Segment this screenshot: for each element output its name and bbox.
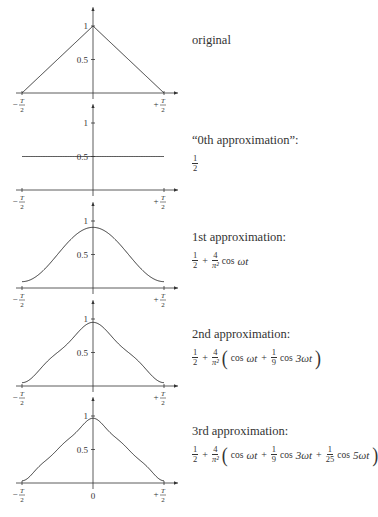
caption-approx0: “0th approximation”: bbox=[192, 133, 299, 148]
fraction-one-half: 12 bbox=[192, 348, 198, 367]
sign: + bbox=[153, 196, 158, 206]
sign: − bbox=[12, 489, 17, 499]
fraction-one-half: 12 bbox=[192, 251, 198, 270]
x-tick-minus-t-half: −T2 bbox=[12, 292, 25, 309]
y-tick-1: 1 bbox=[84, 216, 89, 226]
numerator: T bbox=[20, 390, 25, 398]
numerator: T bbox=[20, 97, 25, 105]
x-tick-minus-t-half: −T2 bbox=[12, 487, 25, 504]
sign: − bbox=[12, 99, 17, 109]
y-tick-0.5: 0.5 bbox=[77, 348, 89, 358]
y-tick-1: 1 bbox=[84, 411, 89, 421]
y-tick-0.5: 0.5 bbox=[77, 445, 89, 455]
denominator: 2 bbox=[20, 399, 24, 407]
caption-approx3: 3rd approximation: bbox=[192, 424, 288, 439]
formula-approx2: 12 + 4π² ( cos ωt + 19 cos 3ωt ) bbox=[192, 348, 321, 367]
numerator: T bbox=[20, 487, 25, 495]
fraction-four-over-pi-squared: 4π² bbox=[212, 348, 219, 367]
denominator: 2 bbox=[161, 399, 165, 407]
caption-approx1: 1st approximation: bbox=[192, 230, 286, 245]
x-tick-zero: 0 bbox=[91, 491, 96, 501]
denominator: 2 bbox=[161, 106, 165, 114]
sign: − bbox=[12, 196, 17, 206]
x-tick-plus-t-half: +T2 bbox=[153, 390, 166, 407]
denominator: 2 bbox=[161, 496, 165, 504]
plot-approx3: 10.5−T2+T20 bbox=[12, 397, 178, 504]
numerator: T bbox=[20, 194, 25, 202]
sign: + bbox=[153, 489, 158, 499]
caption-approx2: 2nd approximation: bbox=[192, 327, 290, 342]
plot-original: 10.5−T2+T2 bbox=[12, 7, 178, 114]
formula-approx3: 12 + 4π² ( cos ωt + 19 cos 3ωt + 125 cos… bbox=[192, 445, 378, 464]
fraction-one-half: 12 bbox=[192, 154, 198, 173]
caption-original: original bbox=[192, 33, 231, 48]
denominator: 2 bbox=[20, 496, 24, 504]
plot-approx1: 10.5−T2+T2 bbox=[12, 202, 178, 309]
numerator: T bbox=[161, 292, 166, 300]
sign: + bbox=[153, 294, 158, 304]
denominator: 2 bbox=[161, 301, 165, 309]
denominator: 2 bbox=[20, 106, 24, 114]
denominator: 2 bbox=[20, 203, 24, 211]
numerator: T bbox=[20, 292, 25, 300]
sign: − bbox=[12, 392, 17, 402]
sign: + bbox=[153, 392, 158, 402]
x-tick-minus-t-half: −T2 bbox=[12, 194, 25, 211]
fraction-four-over-pi-squared: 4π² bbox=[212, 251, 219, 270]
numerator: T bbox=[161, 97, 166, 105]
fraction-one-twentyfifth: 125 bbox=[326, 445, 335, 464]
sign: + bbox=[153, 99, 158, 109]
denominator: 2 bbox=[161, 203, 165, 211]
y-tick-0.5: 0.5 bbox=[77, 55, 89, 65]
x-tick-minus-t-half: −T2 bbox=[12, 97, 25, 114]
fraction-one-half: 12 bbox=[192, 445, 198, 464]
numerator: T bbox=[161, 390, 166, 398]
y-tick-1: 1 bbox=[84, 314, 89, 324]
x-tick-minus-t-half: −T2 bbox=[12, 390, 25, 407]
formula-approx1: 12 + 4π² cos ωt bbox=[192, 251, 248, 270]
numerator: T bbox=[161, 194, 166, 202]
plot-approx0: 10.5−T2+T2 bbox=[12, 104, 178, 211]
x-tick-plus-t-half: +T2 bbox=[153, 487, 166, 504]
formula-approx0: 12 bbox=[192, 154, 198, 173]
x-tick-plus-t-half: +T2 bbox=[153, 194, 166, 211]
y-tick-0.5: 0.5 bbox=[77, 250, 89, 260]
y-tick-1: 1 bbox=[84, 118, 89, 128]
fraction-one-ninth: 19 bbox=[271, 348, 277, 367]
fraction-one-ninth: 19 bbox=[271, 445, 277, 464]
fraction-four-over-pi-squared: 4π² bbox=[212, 445, 219, 464]
numerator: T bbox=[161, 487, 166, 495]
x-tick-plus-t-half: +T2 bbox=[153, 292, 166, 309]
denominator: 2 bbox=[20, 301, 24, 309]
sign: − bbox=[12, 294, 17, 304]
x-tick-plus-t-half: +T2 bbox=[153, 97, 166, 114]
y-tick-1: 1 bbox=[84, 21, 89, 31]
plot-approx2: 10.5−T2+T2 bbox=[12, 300, 178, 407]
